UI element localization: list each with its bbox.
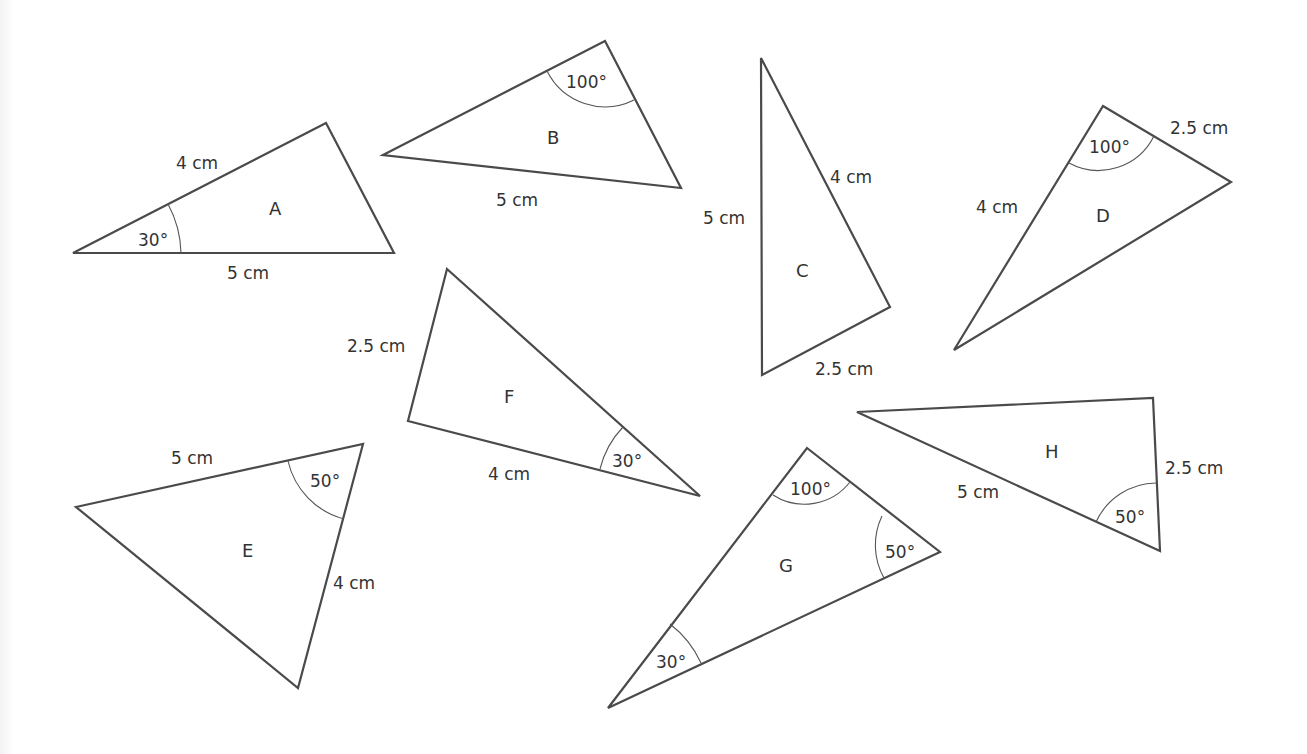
triangle-f-outline — [408, 269, 700, 496]
triangle-a-outline — [73, 123, 394, 253]
triangle-h-name: H — [1045, 441, 1059, 462]
triangle-c-outline — [761, 58, 890, 375]
triangle-e: 50° 5 cm 4 cm E — [76, 444, 375, 688]
triangle-d-angle-label: 100° — [1089, 137, 1130, 157]
triangle-c-side-label: 4 cm — [830, 167, 872, 187]
triangle-b-outline — [383, 41, 681, 188]
triangle-g: 100° 50° 30° G — [608, 448, 940, 708]
triangle-b-name: B — [547, 127, 559, 148]
triangle-e-angle-label: 50° — [310, 471, 340, 491]
triangle-f-side-label: 4 cm — [488, 464, 530, 484]
triangle-g-angle-label: 50° — [885, 542, 915, 562]
triangle-h-outline — [857, 398, 1160, 551]
triangle-g-angle-label: 100° — [790, 479, 831, 499]
triangle-e-name: E — [242, 540, 253, 561]
triangle-e-side-label: 4 cm — [333, 573, 375, 593]
triangle-f: 30° 2.5 cm 4 cm F — [347, 269, 700, 496]
triangle-c: 5 cm 4 cm 2.5 cm C — [703, 58, 890, 379]
triangle-d-side-label: 2.5 cm — [1170, 118, 1228, 138]
triangle-a-side-label: 5 cm — [227, 263, 269, 283]
triangle-d-name: D — [1096, 205, 1110, 226]
triangle-h-angle-label: 50° — [1115, 507, 1145, 527]
triangle-g-angle-label: 30° — [656, 652, 686, 672]
triangle-c-side-label: 5 cm — [703, 208, 745, 228]
triangles-diagram: 30° 4 cm 5 cm A 100° 5 cm B 5 cm 4 cm 2.… — [0, 0, 1307, 754]
triangle-g-name: G — [779, 555, 793, 576]
triangle-b-side-label: 5 cm — [496, 190, 538, 210]
triangle-c-side-label: 2.5 cm — [815, 359, 873, 379]
triangle-a-angle-arc — [168, 204, 181, 253]
triangle-b: 100° 5 cm B — [383, 41, 681, 210]
triangle-e-side-label: 5 cm — [171, 448, 213, 468]
triangle-a-side-label: 4 cm — [176, 153, 218, 173]
triangle-f-angle-label: 30° — [612, 451, 642, 471]
triangle-f-name: F — [504, 386, 514, 407]
triangle-d-side-label: 4 cm — [976, 197, 1018, 217]
triangle-a-name: A — [269, 198, 282, 219]
triangle-g-angle-arc — [875, 516, 884, 578]
triangle-b-angle-label: 100° — [566, 72, 607, 92]
triangles-worksheet: 30° 4 cm 5 cm A 100° 5 cm B 5 cm 4 cm 2.… — [0, 0, 1307, 754]
triangle-f-side-label: 2.5 cm — [347, 336, 405, 356]
triangle-h-side-label: 5 cm — [957, 482, 999, 502]
triangle-a: 30° 4 cm 5 cm A — [73, 123, 394, 283]
triangle-a-angle-label: 30° — [138, 230, 168, 250]
triangle-c-name: C — [796, 260, 809, 281]
triangle-h: 50° 5 cm 2.5 cm H — [857, 398, 1223, 551]
triangle-d: 100° 4 cm 2.5 cm D — [954, 106, 1231, 350]
triangle-h-side-label: 2.5 cm — [1165, 458, 1223, 478]
